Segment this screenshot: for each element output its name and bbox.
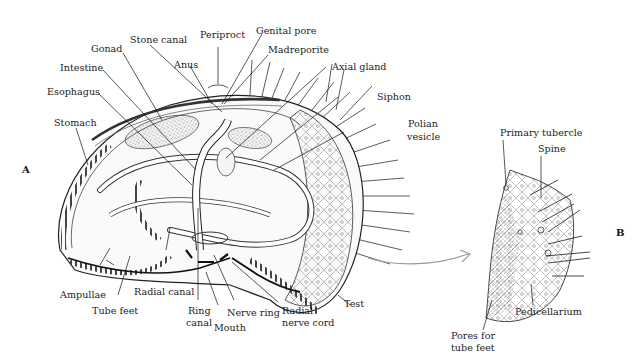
label-ring-canal-line2: canal (186, 317, 212, 328)
label-ampullae: Ampullae (60, 289, 106, 300)
label-primary-tubercle: Primary tubercle (500, 127, 583, 138)
label-periproct: Periproct (200, 29, 245, 40)
panel-label-a: A (22, 164, 30, 175)
test-fragment-b (486, 170, 590, 322)
label-polian-vesicle-line1: Polian (408, 118, 438, 129)
label-stone-canal: Stone canal (130, 34, 187, 45)
label-madreporite: Madreporite (268, 44, 329, 55)
label-nerve-ring: Nerve ring (227, 307, 280, 318)
figure-canvas: A B Periproct Genital pore Stone canal M… (0, 0, 639, 360)
label-gonad: Gonad (91, 43, 122, 54)
label-radial-nerve-cord-line2: nerve cord (282, 317, 334, 328)
label-mouth: Mouth (214, 322, 246, 333)
label-stomach: Stomach (54, 117, 97, 128)
label-pores-line2: tube feet (451, 342, 495, 353)
label-radial-canal: Radial canal (134, 286, 194, 297)
panel-label-b: B (616, 227, 624, 238)
label-radial-nerve-cord-line1: Radial (282, 305, 313, 316)
label-pores-line1: Pores for (451, 330, 495, 341)
label-intestine: Intestine (60, 62, 103, 73)
label-polian-vesicle-line2: vesicle (407, 131, 440, 142)
label-siphon: Siphon (377, 91, 411, 102)
label-test: Test (344, 298, 364, 309)
label-pedicellarium: Pedicellarium (515, 306, 582, 317)
label-genital-pore: Genital pore (256, 25, 316, 36)
label-axial-gland: Axial gland (332, 61, 387, 72)
label-tube-feet: Tube feet (92, 305, 138, 316)
label-anus: Anus (174, 59, 198, 70)
label-spine: Spine (538, 143, 566, 154)
label-ring-canal-line1: Ring (188, 305, 211, 316)
label-esophagus: Esophagus (47, 86, 100, 97)
